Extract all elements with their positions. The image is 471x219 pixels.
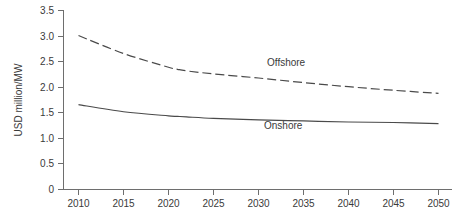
y-tick-label-3.0: 3.0: [40, 31, 54, 42]
y-tick-label-1.0: 1.0: [40, 133, 54, 144]
series-label-onshore: Onshore: [264, 120, 303, 131]
x-axis-ticks: [79, 190, 439, 196]
y-tick-label-2.0: 2.0: [40, 82, 54, 93]
y-tick-label-2.5: 2.5: [40, 56, 54, 67]
y-axis-ticks: [58, 11, 64, 190]
y-tick-label-3.5: 3.5: [40, 5, 54, 16]
chart-canvas: 3.5 3.0 2.5 2.0 1.5 1.0 0.5 0 USD millio…: [0, 0, 471, 219]
x-tick-label-2010: 2010: [67, 198, 90, 209]
series-line-offshore: [79, 36, 439, 94]
x-tick-label-2035: 2035: [292, 198, 315, 209]
x-tick-label-2020: 2020: [157, 198, 180, 209]
y-tick-label-0: 0: [48, 184, 54, 195]
series-line-onshore: [79, 105, 439, 124]
x-tick-label-2045: 2045: [382, 198, 405, 209]
y-tick-label-1.5: 1.5: [40, 107, 54, 118]
cost-projection-line-chart: 3.5 3.0 2.5 2.0 1.5 1.0 0.5 0 USD millio…: [0, 0, 471, 219]
x-tick-label-2040: 2040: [337, 198, 360, 209]
x-tick-label-2015: 2015: [112, 198, 135, 209]
x-tick-label-2025: 2025: [202, 198, 225, 209]
y-axis-title: USD million/MW: [13, 63, 24, 136]
x-tick-label-2050: 2050: [427, 198, 450, 209]
series-label-offshore: Offshore: [267, 57, 306, 68]
x-tick-label-2030: 2030: [247, 198, 270, 209]
y-tick-label-0.5: 0.5: [40, 158, 54, 169]
